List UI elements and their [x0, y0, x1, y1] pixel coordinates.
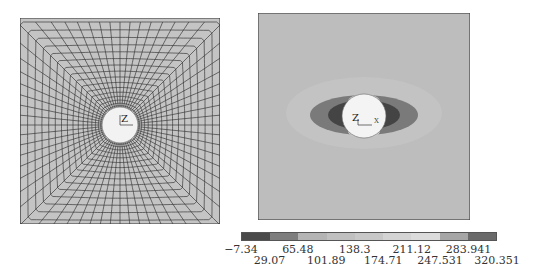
- mesh-plot: Z: [20, 18, 220, 224]
- colorbar-segment: [242, 233, 270, 240]
- colorbar-segment: [468, 233, 496, 240]
- colorbar-segment: [270, 233, 298, 240]
- colorbar-segment: [440, 233, 468, 240]
- contour-plot: Z X: [258, 13, 470, 220]
- colorbar-segment: [383, 233, 411, 240]
- colorbar-segment: [298, 233, 326, 240]
- colorbar-segment: [355, 233, 383, 240]
- colorbar-segment: [327, 233, 355, 240]
- mesh-svg: Z: [20, 18, 220, 224]
- x-axis-label: X: [374, 117, 379, 125]
- colorbar-segment: [411, 233, 439, 240]
- colorbar-tick-label: 320.351: [474, 254, 520, 267]
- z-axis-label: Z: [121, 113, 128, 124]
- z-axis-label: Z: [352, 112, 359, 123]
- contour-svg: Z X: [258, 13, 470, 220]
- colorbar: [241, 232, 497, 241]
- colorbar-tick-label: 29.07: [254, 254, 286, 267]
